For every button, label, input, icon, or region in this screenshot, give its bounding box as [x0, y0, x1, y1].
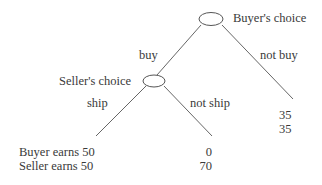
- not-ship-edge: [164, 86, 212, 136]
- seller-choice-node: [143, 75, 165, 87]
- ship-seller-payoff: Seller earns 50: [19, 159, 93, 173]
- not-ship-seller-payoff: 70: [196, 159, 212, 173]
- not-ship-buyer-payoff: 0: [196, 145, 212, 159]
- buyer-choice-node: [199, 13, 223, 26]
- buyer-choice-label: Buyer's choice: [233, 11, 306, 25]
- ship-edge: [96, 86, 146, 136]
- buy-edge: [157, 25, 201, 75]
- not-buy-seller-payoff: 35: [279, 122, 292, 136]
- seller-choice-label: Seller's choice: [59, 74, 131, 88]
- ship-buyer-payoff: Buyer earns 50: [19, 145, 95, 159]
- not-buy-edge-label: not buy: [260, 48, 298, 62]
- buy-edge-label: buy: [139, 48, 158, 62]
- not-ship-edge-label: not ship: [190, 96, 230, 110]
- not-buy-edge: [222, 25, 293, 99]
- not-buy-buyer-payoff: 35: [279, 108, 292, 122]
- ship-edge-label: ship: [87, 96, 108, 110]
